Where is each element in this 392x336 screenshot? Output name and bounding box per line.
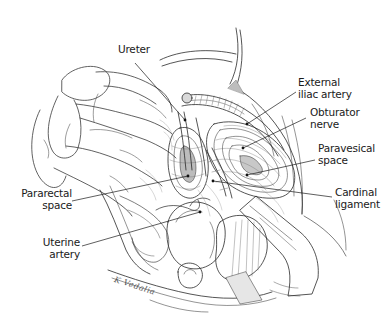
pararectal-space-drawing (168, 112, 208, 198)
leader-dot-ureter (184, 119, 187, 122)
leader-line-pararectal-space (72, 176, 188, 201)
label-external-iliac-artery: External iliac artery (298, 77, 352, 100)
leader-dot-external-iliac-artery (246, 123, 249, 126)
uterus-drawing (156, 198, 225, 269)
label-cardinal-ligament: Cardinal ligament (335, 187, 380, 210)
label-ureter: Ureter (118, 44, 150, 56)
pelvic-anatomy-illustration (0, 0, 392, 336)
leader-dot-obturator-nerve (242, 147, 245, 150)
label-obturator-nerve: Obturator nerve (310, 107, 360, 130)
bladder-drawing (216, 215, 268, 280)
cardinal-ligament-drawing (206, 148, 232, 198)
leader-dot-uterine-artery (199, 211, 202, 214)
leader-dot-pararectal-space (187, 175, 190, 178)
leader-dot-cardinal-ligament (212, 180, 215, 183)
leader-dot-paravesical-space (246, 174, 249, 177)
label-paravesical-space: Paravesical space (318, 143, 375, 166)
retractor-drawing (226, 196, 346, 304)
rectum-drawing (178, 263, 202, 288)
label-uterine-artery: Uterine artery (30, 237, 80, 260)
label-pararectal-space: Pararectal space (20, 188, 72, 211)
leader-line-uterine-artery (82, 212, 200, 246)
